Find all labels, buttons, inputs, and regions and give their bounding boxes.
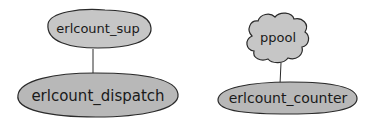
node-label: ppool [260,30,296,45]
node-label: erlcount_counter [229,90,348,106]
node-erlcount-dispatch: erlcount_dispatch [18,73,178,117]
edge-ppool-to-counter [280,63,281,84]
node-label: erlcount_dispatch [31,87,164,106]
supervision-tree-diagram: erlcount_sup erlcount_dispatch ppool erl… [0,0,376,130]
node-erlcount-counter: erlcount_counter [218,82,357,114]
node-label: erlcount_sup [56,21,139,36]
node-erlcount-sup: erlcount_sup [48,10,151,48]
node-ppool: ppool [247,13,309,63]
